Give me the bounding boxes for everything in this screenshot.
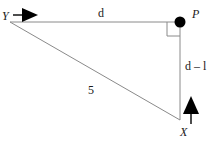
geometry-figure: Y P X d d – l 5 — [0, 0, 215, 146]
vertex-label-p: P — [192, 8, 199, 20]
edge-yx-line — [10, 22, 180, 120]
side-label-top-d: d — [98, 7, 104, 19]
side-label-hypotenuse-5: 5 — [88, 84, 94, 96]
side-label-right-d-minus-l: d – l — [185, 60, 206, 72]
vertex-label-y: Y — [2, 10, 9, 22]
arrow-up-icon — [183, 96, 199, 114]
point-dot-icon — [175, 17, 186, 28]
arrow-right-icon — [22, 8, 38, 22]
vertex-label-x: X — [180, 126, 187, 138]
